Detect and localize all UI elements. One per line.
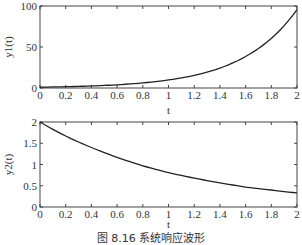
- y-tick-label: 50: [26, 41, 38, 53]
- x-tick-label: 0.4: [85, 89, 99, 101]
- x-tick-label: 1: [166, 89, 172, 101]
- subplot-2: 00.20.40.60.811.21.41.61.8200.511.52ty2(…: [2, 116, 300, 230]
- x-tick-label: 1.4: [213, 89, 227, 101]
- x-tick-label: 0.4: [85, 208, 99, 220]
- x-tick-label: 1.8: [264, 208, 278, 220]
- x-tick-label: 0.2: [59, 89, 73, 101]
- subplot-1: 00.20.40.60.811.21.41.61.82050100ty1(t): [2, 0, 300, 116]
- y-tick-label: 1.5: [23, 137, 37, 149]
- y-tick-label: 0: [32, 201, 38, 213]
- x-tick-label: 1.6: [239, 89, 253, 101]
- x-tick-label: 0: [37, 89, 43, 101]
- y-tick-label: 100: [21, 0, 38, 12]
- y-axis-label: y2(t): [2, 153, 15, 175]
- x-tick-label: 1.2: [187, 208, 201, 220]
- y-tick-label: 0: [32, 82, 38, 94]
- y-tick-label: 2: [32, 116, 38, 128]
- y-tick-label: 0.5: [23, 180, 37, 192]
- data-line-y1t: [40, 10, 297, 88]
- plot-frame: [40, 6, 297, 88]
- x-tick-label: 0.8: [136, 89, 150, 101]
- x-tick-label: 0.2: [59, 208, 73, 220]
- y-axis-label: y1(t): [2, 36, 15, 58]
- x-tick-label: 1.8: [264, 89, 278, 101]
- x-tick-label: 2: [294, 208, 300, 220]
- plot-frame: [40, 122, 297, 207]
- x-tick-label: 1.6: [239, 208, 253, 220]
- x-tick-label: 0.6: [110, 208, 124, 220]
- x-tick-label: 0.6: [110, 89, 124, 101]
- x-tick-label: 0.8: [136, 208, 150, 220]
- data-line-y2t: [40, 122, 297, 193]
- x-tick-label: 0: [37, 208, 43, 220]
- x-tick-label: 1.2: [187, 89, 201, 101]
- figure-caption: 图 8.16 系统响应波形: [0, 229, 302, 245]
- x-tick-label: 2: [294, 89, 300, 101]
- x-axis-label: t: [167, 104, 170, 116]
- x-tick-label: 1.4: [213, 208, 227, 220]
- y-tick-label: 1: [32, 159, 38, 171]
